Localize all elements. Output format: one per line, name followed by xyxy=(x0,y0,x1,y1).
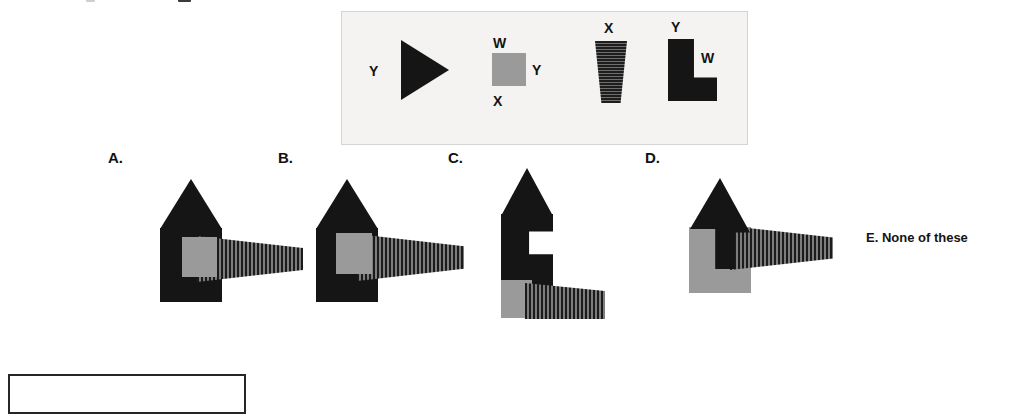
option-a-roof-triangle xyxy=(160,179,222,229)
option-c[interactable]: C. xyxy=(448,150,648,320)
stimulus-label-l-y: Y xyxy=(671,20,680,34)
stimulus-label-l-w: W xyxy=(701,51,714,65)
partial-answer-box xyxy=(8,374,246,414)
gray-square-icon xyxy=(492,53,526,86)
stimulus-item-striped-trapezoid: X xyxy=(585,18,665,122)
option-c-figure xyxy=(474,162,654,317)
option-b-label: B. xyxy=(278,150,293,165)
option-e-label: E. None of these xyxy=(866,230,968,245)
option-d[interactable]: D. xyxy=(645,150,845,310)
stimulus-label-square-w: W xyxy=(493,36,506,50)
stimulus-label-triangle-y: Y xyxy=(369,64,378,78)
cutoff-glyph-1 xyxy=(86,0,95,2)
option-c-label: C. xyxy=(448,150,463,165)
cutoff-glyph-2 xyxy=(178,0,191,2)
stimulus-item-l-block: Y W xyxy=(658,18,748,122)
option-a-label: A. xyxy=(108,150,123,165)
stimulus-label-square-x: X xyxy=(493,94,502,108)
option-b-gray-square xyxy=(336,233,372,274)
triangle-right-icon xyxy=(401,40,449,100)
stimulus-item-gray-square: W Y X xyxy=(472,24,582,124)
stimulus-item-triangle-right: Y xyxy=(369,34,469,106)
shape-definition-panel: Y W Y X X Y W xyxy=(341,11,748,145)
option-c-roof-triangle xyxy=(501,168,553,216)
option-d-figure xyxy=(671,172,851,302)
stimulus-label-trapezoid-x: X xyxy=(604,21,613,35)
option-d-striped-wedge xyxy=(730,226,833,270)
l-block-icon xyxy=(668,39,717,101)
option-a-gray-square xyxy=(182,237,217,277)
option-c-striped-wedge xyxy=(525,283,605,319)
option-c-notched-tower xyxy=(501,214,553,290)
option-b-roof-triangle xyxy=(316,179,378,229)
striped-trapezoid-icon xyxy=(595,41,627,103)
option-d-label: D. xyxy=(645,150,660,165)
cutoff-text-strip xyxy=(0,0,1019,6)
stimulus-label-square-y: Y xyxy=(532,63,541,77)
